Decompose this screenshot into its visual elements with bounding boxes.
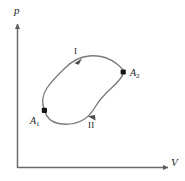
x-axis-label: V — [171, 157, 178, 168]
cycle-curve — [43, 56, 124, 124]
pv-cycle-figure: p V A1 A2 I II — [0, 0, 185, 181]
y-axis-label: p — [14, 5, 20, 16]
point-label-A1-subscript: 1 — [36, 120, 40, 128]
figure-canvas — [0, 0, 185, 181]
point-label-A1: A1 — [30, 116, 40, 126]
point-marker-A2 — [121, 69, 126, 74]
point-label-A2-subscript: 2 — [136, 72, 140, 80]
path-label-II: II — [88, 121, 95, 130]
path-label-I: I — [74, 47, 77, 56]
point-label-A2: A2 — [130, 68, 140, 78]
point-marker-A1 — [42, 108, 47, 113]
